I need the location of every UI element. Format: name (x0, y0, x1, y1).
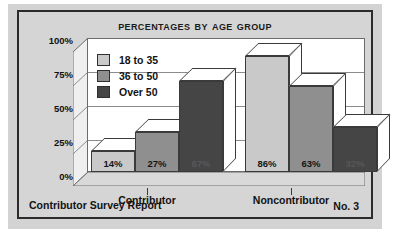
y-tick-label-50: 50% (54, 103, 73, 114)
bar-value-label: 14% (91, 158, 135, 169)
legend-item-18-35[interactable]: 18 to 35 (97, 54, 158, 66)
bar-front-face (245, 56, 289, 172)
bar-value-label: 67% (179, 158, 223, 169)
bar-value-label: 86% (245, 158, 289, 169)
legend-item-over-50[interactable]: Over 50 (97, 86, 158, 98)
footer-number: No. 3 (333, 200, 359, 212)
plot-floor (73, 170, 365, 186)
bar-contributor-36-50[interactable]: 27% (135, 132, 179, 172)
legend-swatch-icon (97, 70, 110, 82)
bar-noncontributor-36-50[interactable]: 63% (289, 86, 333, 172)
bar-value-label: 63% (289, 158, 333, 169)
bar-side-face (223, 68, 236, 172)
y-tick-label-0: 0% (59, 171, 73, 182)
scanned-page: Percentages by Age Group 100% 75% 50% 25… (0, 0, 396, 241)
legend-swatch-icon (97, 86, 110, 98)
bar-contributor-over-50[interactable]: 67% (179, 81, 223, 172)
plot-side-wall (73, 38, 88, 186)
legend-label: 18 to 35 (119, 54, 158, 66)
y-axis: 100% 75% 50% 25% 0% (31, 12, 73, 217)
bar-value-label: 32% (333, 158, 377, 169)
bar-noncontributor-18-35[interactable]: 86% (245, 56, 289, 172)
chart-legend: 18 to 35 36 to 50 Over 50 (97, 54, 158, 102)
y-tick-label-100: 100% (49, 35, 73, 46)
legend-label: 36 to 50 (119, 70, 158, 82)
legend-item-36-50[interactable]: 36 to 50 (97, 70, 158, 82)
chart-card: Percentages by Age Group 100% 75% 50% 25… (8, 4, 382, 229)
bar-value-label: 27% (135, 158, 179, 169)
footer-report-title: Contributor Survey Report (29, 199, 161, 211)
x-axis-label-noncontributor: Noncontributor (253, 194, 329, 206)
bar-contributor-18-35[interactable]: 14% (91, 151, 135, 172)
y-tick-label-25: 25% (54, 137, 73, 148)
chart-frame: Percentages by Age Group 100% 75% 50% 25… (17, 10, 373, 219)
legend-swatch-icon (97, 54, 110, 66)
y-tick-label-75: 75% (54, 69, 73, 80)
bar-noncontributor-over-50[interactable]: 32% (333, 127, 377, 172)
legend-label: Over 50 (119, 86, 158, 98)
